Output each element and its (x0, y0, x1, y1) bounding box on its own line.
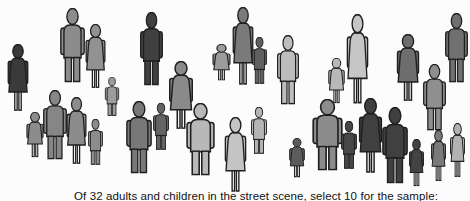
person-figure-boy[interactable] (251, 37, 268, 84)
person-figure-woman[interactable] (222, 117, 249, 193)
person-figure-man[interactable] (276, 35, 300, 105)
person-figure-boy[interactable] (87, 119, 104, 165)
person-figure-woman[interactable] (344, 14, 371, 105)
person-figure-man[interactable] (125, 101, 153, 174)
person-figure-boy[interactable] (250, 107, 268, 154)
person-figure-man[interactable] (444, 13, 469, 83)
person-figure-girl[interactable] (448, 123, 467, 178)
street-scene: Of 32 adults and children in the street … (0, 0, 470, 201)
person-figure-woman[interactable] (5, 44, 31, 112)
person-figure-woman[interactable] (64, 97, 89, 165)
person-figure-man[interactable] (59, 8, 86, 83)
person-figure-woman[interactable] (394, 34, 422, 102)
person-figure-boy[interactable] (104, 77, 120, 116)
person-figure-man[interactable] (185, 103, 216, 176)
person-figure-boy[interactable] (152, 103, 170, 150)
person-figure-girl[interactable] (407, 139, 426, 187)
scene-caption: Of 32 adults and children in the street … (42, 189, 470, 201)
person-figure-man[interactable] (139, 12, 164, 86)
person-figure-man[interactable] (381, 107, 409, 184)
person-figure-girl[interactable] (429, 130, 448, 182)
person-figure-girl[interactable] (287, 138, 307, 178)
